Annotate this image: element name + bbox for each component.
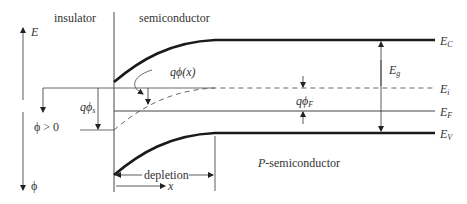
insulator-label: insulator xyxy=(54,12,96,24)
q-phi-s-sub: s xyxy=(92,106,95,115)
intrinsic-level xyxy=(114,88,435,130)
intrinsic-level-label: Ei xyxy=(440,83,450,99)
x-axis-label: x xyxy=(168,180,173,192)
energy-axis-label: E xyxy=(31,26,38,38)
phi-positive-label: ϕ > 0 xyxy=(34,121,59,133)
band-gap-label: Eg xyxy=(389,64,400,80)
conduction-band-label: EC xyxy=(440,35,453,51)
ec-sub: C xyxy=(447,40,452,49)
band-diagram xyxy=(0,0,467,204)
depletion-label: depletion xyxy=(144,169,189,181)
semiconductor-label: semiconductor xyxy=(139,12,210,24)
potential-axis-label: ϕ xyxy=(31,180,37,192)
p-semiconductor-label: P-semiconductor xyxy=(258,157,340,169)
band-gap-sub: g xyxy=(396,69,400,78)
fermi-level-label: EF xyxy=(440,106,452,122)
valence-band-label: EV xyxy=(440,128,452,144)
q-phi-x-pointer xyxy=(135,70,152,94)
q-phi-s-label: qϕs xyxy=(80,101,95,117)
conduction-band xyxy=(114,40,435,82)
q-phi-f-main: qϕ xyxy=(296,94,308,108)
q-phi-s-main: qϕ xyxy=(80,100,92,114)
q-phi-x-label: qϕ(x) xyxy=(170,66,196,78)
ef-sub: F xyxy=(447,111,452,120)
ei-sub: i xyxy=(447,88,449,97)
q-phi-f-sub: F xyxy=(308,100,313,109)
ev-sub: V xyxy=(447,133,452,142)
q-phi-f-label: qϕF xyxy=(296,95,313,111)
p-type-prefix: P xyxy=(258,156,265,170)
